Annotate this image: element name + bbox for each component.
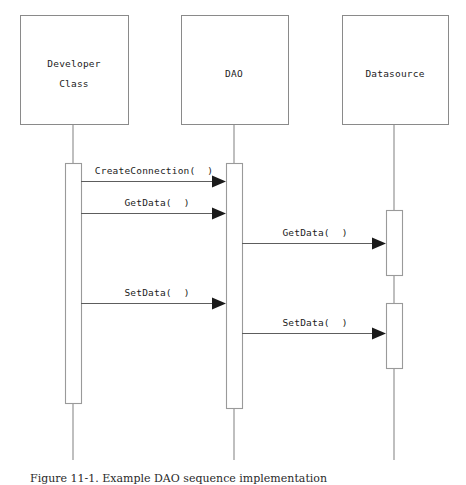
- participant-box-developer[interactable]: [21, 16, 129, 125]
- participant-label-dao: DAO: [225, 68, 243, 79]
- activations-layer: [66, 164, 403, 409]
- message-create-connection[interactable]: CreateConnection( ): [81, 165, 226, 188]
- message-label-create-connection: CreateConnection( ): [95, 165, 213, 176]
- participants-layer: Developer Class DAO Datasource: [21, 16, 449, 125]
- message-arrowhead-create-connection: [212, 176, 226, 188]
- message-arrowhead-setdata-dao: [212, 298, 226, 310]
- activation-bar-developer: [66, 164, 82, 404]
- message-label-setdata-datasource: SetData( ): [282, 317, 347, 328]
- participant-label-datasource: Datasource: [365, 68, 424, 79]
- participant-label-developer-line2: Class: [59, 78, 89, 89]
- message-getdata-dao[interactable]: GetData( ): [81, 197, 226, 220]
- message-setdata-datasource[interactable]: SetData( ): [242, 317, 386, 340]
- participant-label-developer-line1: Developer: [47, 58, 100, 69]
- message-arrowhead-setdata-datasource: [372, 328, 386, 340]
- participant-developer[interactable]: Developer Class: [21, 16, 129, 125]
- message-label-setdata-dao: SetData( ): [124, 287, 189, 298]
- message-getdata-datasource[interactable]: GetData( ): [242, 227, 386, 250]
- figure-caption: Figure 11-1. Example DAO sequence implem…: [30, 473, 450, 485]
- sequence-diagram-svg: Developer Class DAO Datasource Create: [0, 0, 466, 485]
- message-arrowhead-getdata-dao: [212, 208, 226, 220]
- sequence-diagram-canvas: Developer Class DAO Datasource Create: [0, 0, 466, 485]
- activation-bar-datasource-set: [387, 304, 403, 369]
- message-setdata-dao[interactable]: SetData( ): [81, 287, 226, 310]
- activation-bar-datasource-get: [387, 211, 403, 276]
- participant-dao[interactable]: DAO: [182, 16, 289, 125]
- message-arrowhead-getdata-datasource: [372, 238, 386, 250]
- message-label-getdata-dao: GetData( ): [124, 197, 189, 208]
- participant-datasource[interactable]: Datasource: [343, 16, 449, 125]
- message-label-getdata-datasource: GetData( ): [282, 227, 347, 238]
- activation-bar-dao: [227, 164, 243, 409]
